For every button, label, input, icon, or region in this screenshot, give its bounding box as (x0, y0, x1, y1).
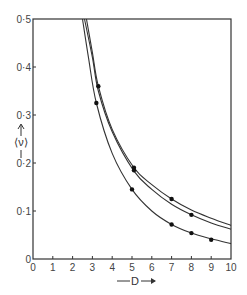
y-tick-label: 0·1 (17, 206, 32, 217)
x-tick-label: 8 (189, 262, 195, 273)
data-point (94, 101, 98, 105)
axis-ticks: 01234567891000·10·20·30·40·5 (17, 14, 237, 273)
data-point (169, 222, 173, 226)
x-tick-label: 2 (70, 262, 76, 273)
data-point (189, 213, 193, 217)
x-tick-label: 5 (129, 262, 135, 273)
y-axis-label-text: ⟨ν⟩ (14, 136, 28, 148)
chart: 01234567891000·10·20·30·40·5 D ⟨ν⟩ (0, 0, 247, 295)
y-tick-label: 0·4 (17, 62, 32, 73)
y-axis-label: ⟨ν⟩ (14, 124, 28, 158)
plot-frame (33, 19, 231, 259)
data-point (189, 231, 193, 235)
data-points (94, 84, 213, 242)
y-tick-label: 0 (25, 254, 31, 265)
y-tick-label: 0·5 (17, 14, 32, 25)
data-point (96, 84, 100, 88)
data-point (130, 187, 134, 191)
data-point (169, 197, 173, 201)
series-curve-3 (83, 19, 232, 244)
x-tick-label: 1 (50, 262, 56, 273)
x-axis-label-text: D (131, 275, 139, 287)
x-axis-label: D (117, 275, 156, 287)
x-tick-label: 3 (90, 262, 96, 273)
x-tick-label: 10 (225, 262, 237, 273)
data-point (209, 238, 213, 242)
x-tick-label: 6 (149, 262, 155, 273)
series-curve-2 (84, 19, 231, 229)
x-tick-label: 9 (208, 262, 214, 273)
y-tick-label: 0·3 (17, 110, 32, 121)
y-tick-label: 0·2 (17, 158, 32, 169)
data-curves (83, 19, 232, 244)
x-tick-label: 7 (169, 262, 175, 273)
x-tick-label: 0 (30, 262, 36, 273)
x-tick-label: 4 (109, 262, 115, 273)
data-point (132, 168, 136, 172)
